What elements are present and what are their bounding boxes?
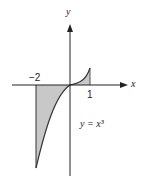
- x-axis-arrow-icon: [120, 82, 128, 88]
- y-axis-arrow-icon: [67, 24, 73, 32]
- cubic-area-diagram: [0, 0, 148, 182]
- tick-neg-two: −2: [29, 72, 40, 83]
- tick-one: 1: [87, 89, 93, 100]
- equation-label: y = x³: [80, 118, 104, 129]
- x-axis-label: x: [131, 78, 135, 89]
- y-axis-label: y: [66, 6, 70, 17]
